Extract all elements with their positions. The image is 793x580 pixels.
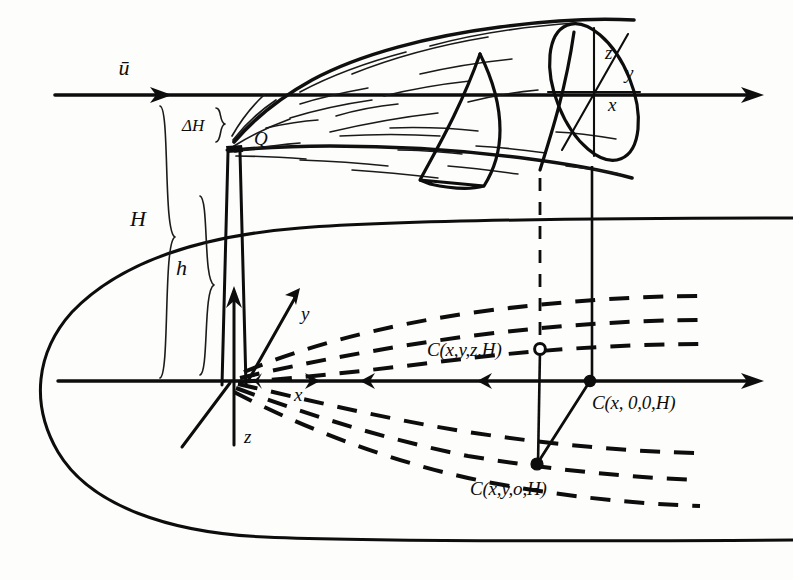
- brace-delta-h: [216, 108, 225, 142]
- origin-axis-x-label: x: [293, 384, 303, 405]
- concentration-point-xy0h: [531, 458, 543, 470]
- effective-height-label: H: [129, 206, 147, 231]
- drop-line-to-ground-point: [538, 350, 540, 464]
- origin-axis-y-label: y: [299, 303, 310, 324]
- delta-h-label: ΔH: [181, 116, 206, 135]
- plume-axis-y-label: y: [623, 62, 634, 83]
- concentration-point-x00h: [584, 375, 595, 386]
- source-label: Q: [254, 128, 268, 149]
- figure-root: ū: [0, 0, 793, 580]
- plume-cross-section-ellipse: [532, 11, 656, 173]
- plume-axis-z-label: z: [604, 42, 613, 63]
- emission-arrow: [226, 286, 242, 382]
- conc-x00h-label: C(x, 0,0,H): [592, 392, 675, 414]
- ground-x-axis: [58, 373, 764, 389]
- plume-axis-x-label: x: [607, 94, 617, 115]
- conc-xy0h-label: C(x,y,o,H): [470, 478, 547, 500]
- brace-stack-height-h: [200, 196, 214, 375]
- plume-body: [232, 19, 634, 188]
- plume-dispersion-diagram: ū: [0, 0, 793, 580]
- wind-speed-label: ū: [119, 55, 130, 80]
- stack-height-label: h: [176, 255, 187, 280]
- brace-effective-height-H: [160, 106, 175, 378]
- wind-centerline-axis: [55, 87, 764, 103]
- origin-axis-z-label: z: [243, 426, 252, 447]
- conc-xyzh-label: C(x,y,z,H): [427, 339, 502, 361]
- concentration-point-xyzh: [535, 344, 546, 355]
- connector-x00h-to-xy0h: [537, 381, 590, 464]
